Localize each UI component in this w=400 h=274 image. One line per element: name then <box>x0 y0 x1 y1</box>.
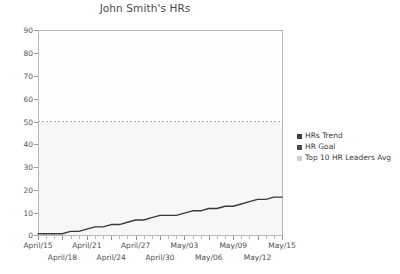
y-axis-label: 70 <box>23 71 33 80</box>
x-axis-label: May/09 <box>219 241 247 250</box>
y-axis-label: 90 <box>23 26 33 35</box>
x-axis-label: May/06 <box>195 253 223 262</box>
chart-legend: HRs TrendHR GoalTop 10 HR Leaders Avg <box>297 131 397 164</box>
x-axis-tick-major <box>160 236 161 240</box>
legend-item[interactable]: Top 10 HR Leaders Avg <box>297 153 397 163</box>
x-axis-tick-major <box>233 236 234 240</box>
x-axis-tick-minor <box>241 236 242 239</box>
x-axis-tick-major <box>111 236 112 240</box>
x-axis-tick-minor <box>95 236 96 239</box>
x-axis-tick-minor <box>127 236 128 239</box>
legend-item-label: Top 10 HR Leaders Avg <box>305 153 391 163</box>
x-axis-tick-minor <box>119 236 120 239</box>
x-axis-tick-minor <box>54 236 55 239</box>
x-axis-tick-major <box>136 236 137 240</box>
y-axis-label: 30 <box>23 163 33 172</box>
x-axis-label: May/03 <box>171 241 199 250</box>
legend-item-label: HR Goal <box>305 142 335 152</box>
x-axis-tick-major <box>62 236 63 240</box>
legend-item-label: HRs Trend <box>305 131 343 141</box>
y-axis-label: 50 <box>23 117 33 126</box>
y-axis-label: 20 <box>23 186 33 195</box>
x-axis-label: April/24 <box>97 253 126 262</box>
x-axis-tick-minor <box>274 236 275 239</box>
y-axis-label: 0 <box>28 231 33 240</box>
series-layer <box>38 30 283 236</box>
y-axis-label: 60 <box>23 94 33 103</box>
x-axis-tick-minor <box>71 236 72 239</box>
x-axis-label: April/27 <box>121 241 150 250</box>
x-axis-tick-minor <box>176 236 177 239</box>
x-axis-label: April/30 <box>145 253 174 262</box>
x-axis-label: April/15 <box>23 241 52 250</box>
x-axis-label: May/15 <box>268 241 296 250</box>
x-axis-tick-major <box>184 236 185 240</box>
x-axis-label: April/18 <box>48 253 77 262</box>
x-axis-tick-major <box>209 236 210 240</box>
x-axis-tick-minor <box>46 236 47 239</box>
x-axis-tick-minor <box>217 236 218 239</box>
chart-container: John Smith's HRs 0102030405060708090 Apr… <box>0 0 400 274</box>
x-axis-tick-minor <box>201 236 202 239</box>
x-axis-tick-minor <box>79 236 80 239</box>
x-axis-tick-major <box>258 236 259 240</box>
x-axis-tick-major <box>38 236 39 240</box>
x-axis-tick-minor <box>266 236 267 239</box>
x-axis-tick-major <box>87 236 88 240</box>
chart-title: John Smith's HRs <box>0 2 290 14</box>
y-axis-label: 10 <box>23 209 33 218</box>
legend-item[interactable]: HRs Trend <box>297 131 397 141</box>
x-axis-tick-minor <box>225 236 226 239</box>
x-axis-tick-minor <box>152 236 153 239</box>
x-axis-tick-minor <box>144 236 145 239</box>
x-axis-tick-minor <box>193 236 194 239</box>
x-axis-label: May/12 <box>244 253 272 262</box>
x-axis-tick-minor <box>249 236 250 239</box>
plot-area: 0102030405060708090 April/15April/18Apri… <box>38 30 283 236</box>
x-axis-tick-minor <box>168 236 169 239</box>
legend-swatch-icon <box>297 134 302 139</box>
legend-swatch-icon <box>297 156 302 161</box>
x-axis-tick-minor <box>103 236 104 239</box>
x-axis-label: April/21 <box>72 241 101 250</box>
x-axis-tick-major <box>282 236 283 240</box>
y-axis-label: 40 <box>23 140 33 149</box>
hrs-trend-line <box>38 197 282 234</box>
legend-swatch-icon <box>297 145 302 150</box>
y-axis-label: 80 <box>23 48 33 57</box>
legend-item[interactable]: HR Goal <box>297 142 397 152</box>
